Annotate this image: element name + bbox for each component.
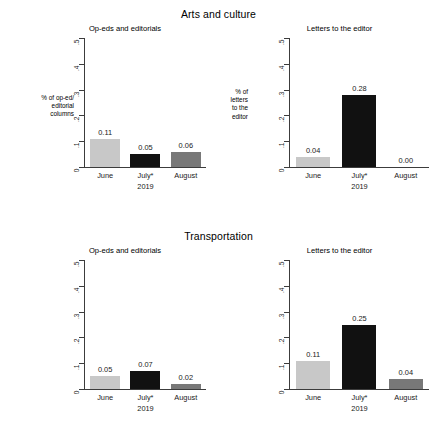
y-axis-tick xyxy=(79,141,84,142)
x-axis-label: July* xyxy=(336,171,382,180)
plot-area: 0.040.280.00 JuneJuly*August 20192019201… xyxy=(289,38,429,168)
section-arts-and-culture: Arts and culture Op-eds and editorials 0… xyxy=(0,0,437,222)
bar-value-label: 0.04 xyxy=(306,146,320,155)
bar: 0.07 xyxy=(130,371,160,389)
bar: 0.11 xyxy=(296,361,330,389)
x-axis-label: July* xyxy=(125,171,165,180)
bar: 0.05 xyxy=(90,376,120,389)
y-axis-tick xyxy=(79,312,84,313)
bar: 0.25 xyxy=(342,325,376,390)
section-title: Arts and culture xyxy=(0,8,437,20)
bar: 0.02 xyxy=(171,384,201,389)
y-axis-title-line: editor xyxy=(208,113,248,121)
y-axis-tick-label: 0 xyxy=(278,169,285,183)
y-axis-tick-label: .1 xyxy=(73,365,80,379)
y-axis-tick-label: .1 xyxy=(73,143,80,157)
figure-canvas: Arts and culture Op-eds and editorials 0… xyxy=(0,0,437,444)
bar-group: 0.110.050.06 xyxy=(85,38,206,167)
bar: 0.28 xyxy=(342,95,376,167)
x-axis-labels: JuneJuly*August xyxy=(85,171,206,180)
x-axis-label: June xyxy=(290,171,336,180)
bar-value-label: 0.05 xyxy=(138,143,152,152)
y-axis-tick xyxy=(79,90,84,91)
y-axis-tick xyxy=(284,38,289,39)
y-axis-tick-label: .2 xyxy=(278,339,285,353)
bar-slot: 0.11 xyxy=(290,260,336,389)
y-axis-tick xyxy=(284,389,289,390)
panel-title: Letters to the editor xyxy=(214,246,437,255)
x-axis-label: June xyxy=(85,393,125,402)
bar-slot: 0.07 xyxy=(125,260,165,389)
bar: 0.04 xyxy=(389,379,423,389)
plot-area: 0.110.050.06 JuneJuly*August 20192019201… xyxy=(84,38,206,168)
x-axis-line xyxy=(289,389,429,390)
bar-value-label: 0.25 xyxy=(352,314,366,323)
bar-slot: 0.05 xyxy=(125,38,165,167)
x-axis-labels: JuneJuly*August xyxy=(290,171,429,180)
x-axis-line xyxy=(289,167,429,168)
x-axis-year-label: 2019 xyxy=(336,182,382,191)
y-axis-tick xyxy=(284,64,289,65)
bar-slot: 0.02 xyxy=(166,260,206,389)
bar-slot: 0.00 xyxy=(383,38,429,167)
x-axis-label: June xyxy=(290,393,336,402)
bar-slot: 0.04 xyxy=(383,260,429,389)
bar-slot: 0.04 xyxy=(290,38,336,167)
x-axis-year: 201920192019 xyxy=(290,404,429,413)
y-axis-title-line: letters xyxy=(208,96,248,104)
y-axis-tick-label: 0 xyxy=(73,391,80,405)
bar-slot: 0.25 xyxy=(336,260,382,389)
y-axis-tick-label: .2 xyxy=(73,117,80,131)
y-axis-tick-label: .4 xyxy=(278,287,285,301)
y-axis-tick-label: .2 xyxy=(73,339,80,353)
y-axis-title-line: % of op-ed/ xyxy=(2,94,74,102)
x-axis-label: August xyxy=(383,171,429,180)
y-axis-tick xyxy=(79,115,84,116)
y-axis-tick xyxy=(284,337,289,338)
x-axis-label: July* xyxy=(125,393,165,402)
y-axis-tick-label: .3 xyxy=(278,91,285,105)
panel-title: Op-eds and editorials xyxy=(2,24,214,33)
bar-group: 0.040.280.00 xyxy=(290,38,429,167)
y-axis-title-line: columns xyxy=(2,110,74,118)
y-axis-tick-label: .5 xyxy=(73,40,80,54)
x-axis-label: August xyxy=(166,393,206,402)
y-axis-tick xyxy=(284,90,289,91)
y-axis-title: % oflettersto theeditor xyxy=(208,88,248,121)
y-axis-tick-label: .2 xyxy=(278,117,285,131)
y-axis-tick xyxy=(284,260,289,261)
bar-value-label: 0.11 xyxy=(306,350,320,359)
panel-transport-letters: Letters to the editor 0.110.250.04 JuneJ… xyxy=(214,246,437,426)
x-axis-label: August xyxy=(166,171,206,180)
y-axis-title: % of op-ed/editorialcolumns xyxy=(2,94,74,119)
x-axis-label: July* xyxy=(336,393,382,402)
y-axis-tick xyxy=(79,167,84,168)
x-axis-year: 201920192019 xyxy=(85,404,206,413)
bar-value-label: 0.11 xyxy=(98,128,112,137)
y-axis-tick xyxy=(79,260,84,261)
x-axis-line xyxy=(84,389,206,390)
x-axis-year-label: 2019 xyxy=(336,404,382,413)
x-axis-year: 201920192019 xyxy=(290,182,429,191)
x-axis-label: August xyxy=(383,393,429,402)
bar-slot: 0.11 xyxy=(85,38,125,167)
x-axis-labels: JuneJuly*August xyxy=(290,393,429,402)
bar-group: 0.110.250.04 xyxy=(290,260,429,389)
y-axis-tick xyxy=(79,64,84,65)
y-axis-tick-label: .5 xyxy=(73,262,80,276)
bar-slot: 0.06 xyxy=(166,38,206,167)
y-axis-tick xyxy=(284,167,289,168)
x-axis-line xyxy=(84,167,206,168)
y-axis-tick xyxy=(79,363,84,364)
y-axis-tick xyxy=(79,286,84,287)
bar-value-label: 0.04 xyxy=(399,368,413,377)
x-axis-labels: JuneJuly*August xyxy=(85,393,206,402)
bar: 0.06 xyxy=(171,152,201,167)
section-title: Transportation xyxy=(0,230,437,242)
x-axis-year-label: 2019 xyxy=(125,404,165,413)
panel-transport-op-eds: Op-eds and editorials 0.050.070.02 JuneJ… xyxy=(2,246,214,426)
y-axis-tick-label: .4 xyxy=(73,287,80,301)
y-axis-tick xyxy=(284,286,289,287)
x-axis-year-label: 2019 xyxy=(125,182,165,191)
y-axis-tick xyxy=(79,389,84,390)
